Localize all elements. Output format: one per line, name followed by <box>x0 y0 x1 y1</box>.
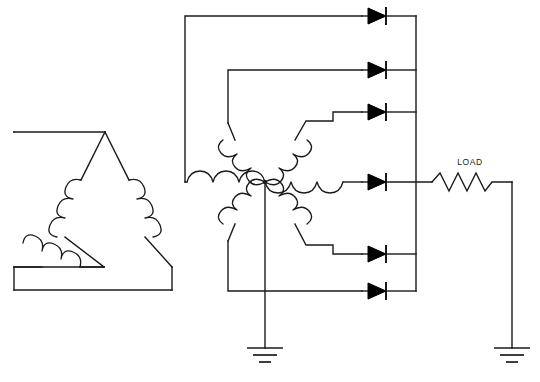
load-resistor-zigzag <box>432 173 512 191</box>
diode-5-triangle <box>368 246 386 262</box>
ground-load-return <box>494 348 530 362</box>
rectifier-diode-bank <box>362 7 432 300</box>
star-coil-upper-left <box>218 179 265 224</box>
six-phase-star-secondary <box>185 112 362 348</box>
inner-left-rail <box>228 70 362 123</box>
star-coil-upper-right <box>265 179 312 224</box>
diode-1-triangle <box>368 8 386 24</box>
diode-2 <box>362 61 416 79</box>
delta-bottom-leg-coil <box>23 235 81 267</box>
diode-6 <box>362 282 416 300</box>
delta-right-leg-upper <box>105 132 129 180</box>
diode-3-triangle <box>368 104 386 120</box>
diode-4 <box>362 173 432 191</box>
star-center-node <box>263 180 267 184</box>
diode-4-triangle <box>368 174 386 190</box>
load-label: LOAD <box>457 157 483 167</box>
ground-neutral <box>247 348 283 362</box>
diode-6-triangle <box>368 283 386 299</box>
delta-primary-winding <box>14 132 172 290</box>
diode-5 <box>362 245 416 263</box>
circuit-diagram: LOAD <box>0 0 540 382</box>
star-coil-lower-left <box>218 140 265 185</box>
diode-1 <box>362 7 416 25</box>
delta-left-leg-coil <box>49 179 81 237</box>
star-coil-upper-right-lead <box>295 112 362 140</box>
lower-left-rail <box>228 241 362 291</box>
star-coil-lower-right-lead <box>295 224 362 254</box>
delta-right-leg-coil <box>129 179 161 237</box>
load-resistor: LOAD <box>432 157 512 191</box>
star-coil-lower-left-lead <box>228 224 235 241</box>
delta-right-leg-lower <box>145 237 172 267</box>
outer-left-rail <box>185 16 362 182</box>
delta-left-leg-upper <box>81 132 105 180</box>
diode-2-triangle <box>368 62 386 78</box>
star-coil-upper-left-lead <box>228 123 235 140</box>
star-coil-lower-right <box>265 140 312 185</box>
delta-left-leg-lower <box>65 237 104 267</box>
star-output-rails <box>185 16 362 291</box>
diode-3 <box>362 103 416 121</box>
circuit-canvas: LOAD <box>0 0 540 382</box>
